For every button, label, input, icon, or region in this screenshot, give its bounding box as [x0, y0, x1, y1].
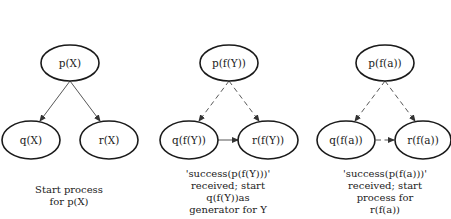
- panel-start-process: p(X) q(X) r(X) Start process for p(X): [2, 45, 138, 207]
- caption: 'success(p(f(Y)))' received; start q(f(Y…: [186, 168, 271, 215]
- node-left-label: q(f(a)): [329, 134, 362, 146]
- node-right-label: r(X): [99, 134, 120, 146]
- svg-text:received; start: received; start: [191, 180, 265, 191]
- svg-text:process for: process for: [357, 192, 414, 203]
- caption: Start process for p(X): [35, 184, 103, 207]
- edge-root-to-left: [355, 81, 385, 121]
- node-root-label: p(f(Y)): [212, 57, 246, 69]
- node-right: r(X): [80, 121, 138, 159]
- node-right-label: r(f(a)): [407, 134, 439, 146]
- node-right: r(f(Y)): [238, 121, 298, 159]
- node-root-label: p(X): [59, 57, 81, 69]
- edge-root-to-right: [229, 81, 259, 121]
- svg-text:r(f(a)): r(f(a)): [370, 204, 400, 215]
- node-root: p(X): [41, 45, 99, 81]
- panel-success-generator: p(f(Y)) q(f(Y)) r(f(Y)) 'success(p(f(Y))…: [160, 45, 298, 215]
- edge-root-to-left: [199, 81, 229, 121]
- svg-text:Start process: Start process: [35, 184, 103, 195]
- edge-root-to-right: [70, 81, 100, 121]
- edge-root-to-right: [385, 81, 415, 121]
- node-right-label: r(f(Y)): [252, 134, 284, 146]
- caption: 'success(p(f(a)))' received; start proce…: [343, 168, 427, 215]
- svg-text:for p(X): for p(X): [49, 196, 88, 207]
- node-root: p(f(a)): [356, 45, 414, 81]
- panel-success-start-r: p(f(a)) q(f(a)) r(f(a)) 'success(p(f(a))…: [317, 45, 451, 215]
- svg-text:received; start: received; start: [348, 180, 422, 191]
- node-left: q(f(Y)): [160, 121, 218, 159]
- node-right: r(f(a)): [395, 121, 451, 159]
- node-left-label: q(X): [20, 134, 42, 146]
- node-root: p(f(Y)): [200, 45, 258, 81]
- node-left-label: q(f(Y)): [172, 134, 206, 146]
- edge-root-to-left: [40, 81, 70, 121]
- node-root-label: p(f(a)): [368, 57, 401, 69]
- node-left: q(X): [2, 121, 60, 159]
- svg-text:q(f(Y))as: q(f(Y))as: [206, 192, 249, 203]
- svg-text:generator for Y: generator for Y: [189, 204, 267, 215]
- svg-text:'success(p(f(a)))': 'success(p(f(a)))': [343, 168, 427, 179]
- svg-text:'success(p(f(Y)))': 'success(p(f(Y)))': [186, 168, 271, 179]
- process-diagram: p(X) q(X) r(X) Start process for p(X) p(…: [0, 0, 451, 219]
- node-left: q(f(a)): [317, 121, 375, 159]
